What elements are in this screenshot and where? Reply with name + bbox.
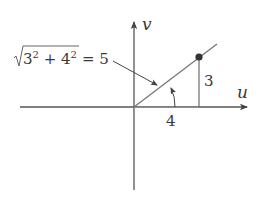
formula-equals: = 5 — [82, 50, 109, 68]
point-marker — [195, 53, 202, 60]
annotation-pointer-arrow — [113, 61, 157, 85]
hypotenuse-length-formula: 32 + 42 = 5 — [14, 46, 109, 68]
v-axis-label: v — [142, 14, 152, 34]
angle-arc — [171, 88, 175, 107]
horizontal-leg-label: 4 — [166, 112, 176, 130]
polar-coordinate-diagram: v u 4 3 32 + 42 = 5 — [0, 0, 265, 197]
vertical-leg-label: 3 — [204, 72, 214, 90]
u-axis-label: u — [237, 82, 248, 102]
radicand: 32 + 42 — [23, 49, 77, 68]
